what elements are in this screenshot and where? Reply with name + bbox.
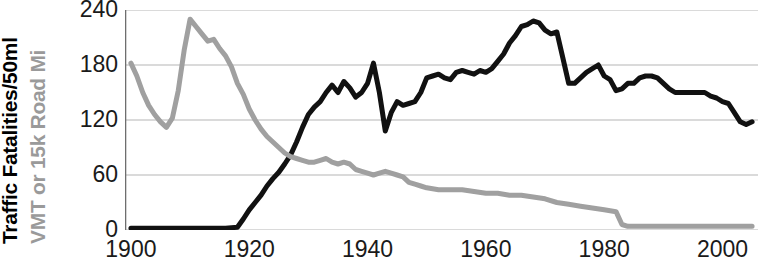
x-axis-tick-labels: 190019201940196019802000 — [0, 238, 758, 274]
chart-figure: Traffic Fatalities/50ml VMT or 15k Road … — [0, 0, 758, 278]
x-tick-label: 2000 — [697, 238, 748, 261]
data-series-layer — [131, 19, 752, 228]
y-tick-label: 240 — [56, 0, 118, 21]
x-tick-label: 1960 — [460, 238, 511, 261]
x-tick-label: 1900 — [105, 238, 156, 261]
x-tick-label: 1980 — [579, 238, 630, 261]
y-tick-label: 180 — [56, 53, 118, 76]
y-axis-title-group: Traffic Fatalities/50ml VMT or 15k Road … — [0, 0, 58, 250]
series-line-vmt — [131, 19, 752, 226]
y-tick-label: 120 — [56, 108, 118, 131]
chart-canvas — [125, 10, 758, 230]
y-axis-title-primary: Traffic Fatalities/50ml — [0, 37, 22, 244]
x-tick-label: 1940 — [342, 238, 393, 261]
y-tick-label: 60 — [56, 163, 118, 186]
gridlines — [125, 10, 758, 230]
y-axis-title-secondary: VMT or 15k Road Mi — [26, 50, 50, 244]
plot-area — [125, 10, 758, 230]
y-axis-tick-labels: 060120180240 — [56, 0, 118, 245]
x-tick-label: 1920 — [224, 238, 275, 261]
